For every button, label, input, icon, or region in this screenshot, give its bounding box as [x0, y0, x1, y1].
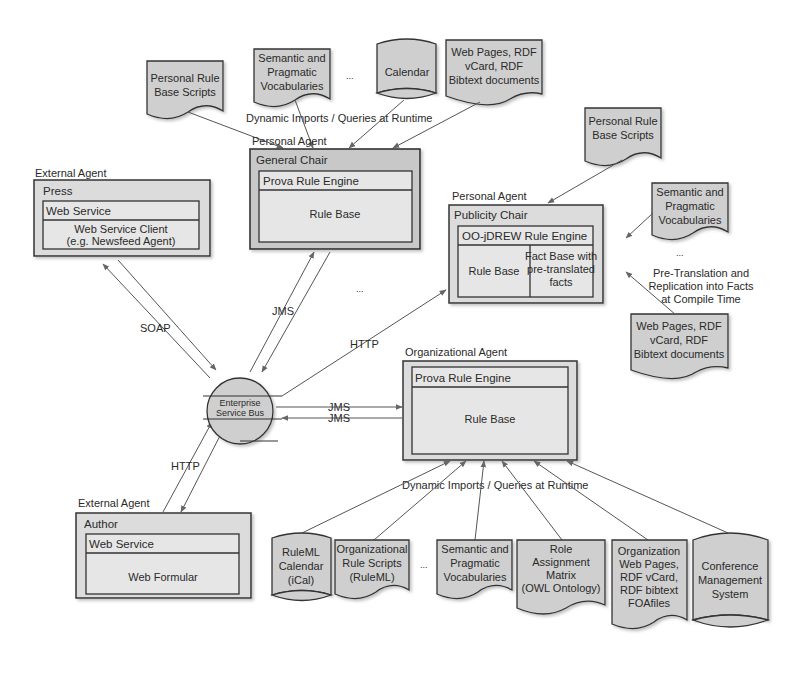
svg-text:vCard, RDF: vCard, RDF — [465, 60, 523, 72]
svg-text:Personal Agent: Personal Agent — [252, 135, 327, 147]
svg-text:External Agent: External Agent — [78, 497, 150, 509]
dynamic-imports-label-top: Dynamic Imports / Queries at Runtime — [246, 112, 432, 124]
jms-general-label: JMS — [272, 305, 294, 317]
svg-text:Personal Rule: Personal Rule — [150, 72, 219, 84]
dynamic-imports-label-bottom: Dynamic Imports / Queries at Runtime — [402, 479, 588, 491]
ellipsis-publicity: ... — [676, 248, 684, 258]
pre-translation-label: Pre-Translation and Replication into Fac… — [648, 267, 754, 305]
svg-text:Personal Rule: Personal Rule — [588, 115, 657, 127]
http-publicity-label: HTTP — [350, 338, 379, 350]
author-agent: External Agent Author Web Service Web Fo… — [76, 497, 251, 598]
svg-text:System: System — [712, 588, 749, 600]
svg-text:Base Scripts: Base Scripts — [592, 129, 654, 141]
bottom-source-org-web-pages: Organization Web Pages, RDF vCard, RDF b… — [612, 540, 687, 629]
svg-text:Vocabularies: Vocabularies — [444, 571, 507, 583]
svg-text:Prova Rule Engine: Prova Rule Engine — [263, 175, 359, 187]
svg-text:(iCal): (iCal) — [288, 574, 314, 586]
svg-text:pre-translated: pre-translated — [527, 263, 595, 275]
svg-text:Rule Base: Rule Base — [469, 265, 520, 277]
top-source-semantic-vocabularies: Semantic and Pragmatic Vocabularies — [254, 49, 330, 107]
svg-text:OO-jDREW Rule Engine: OO-jDREW Rule Engine — [462, 230, 587, 242]
top-source-web-pages: Web Pages, RDF vCard, RDF Bibtext docume… — [446, 40, 542, 105]
svg-text:RDF bibtext: RDF bibtext — [620, 584, 678, 596]
svg-text:Calendar: Calendar — [279, 560, 324, 572]
svg-text:Web Pages, RDF: Web Pages, RDF — [636, 320, 722, 332]
svg-text:Bibtext documents: Bibtext documents — [449, 74, 540, 86]
svg-text:Rule Base: Rule Base — [465, 413, 516, 425]
svg-text:General Chair: General Chair — [256, 154, 328, 166]
svg-text:Role: Role — [550, 543, 573, 555]
svg-text:at Compile Time: at Compile Time — [661, 293, 740, 305]
svg-text:Management: Management — [698, 574, 762, 586]
svg-text:Rule Scripts: Rule Scripts — [342, 557, 402, 569]
publicity-source-semantic-vocabularies: Semantic and Pragmatic Vocabularies — [652, 183, 728, 240]
svg-text:Pragmatic: Pragmatic — [450, 557, 500, 569]
svg-text:Press: Press — [43, 185, 73, 197]
bottom-source-ruleml-calendar: RuleML Calendar (iCal) — [272, 533, 331, 601]
svg-text:Web Service: Web Service — [89, 538, 154, 550]
press-agent: External Agent Press Web Service Web Ser… — [34, 167, 210, 256]
http-author-label: HTTP — [171, 460, 200, 472]
publicity-chair-agent: Personal Agent Publicity Chair OO-jDREW … — [449, 190, 603, 303]
general-chair-agent: Personal Agent General Chair Prova Rule … — [250, 135, 420, 249]
publicity-source-web-pages: Web Pages, RDF vCard, RDF Bibtext docume… — [631, 314, 728, 379]
svg-text:External Agent: External Agent — [35, 167, 107, 179]
svg-text:Author: Author — [84, 518, 118, 530]
top-source-personal-rule-base-scripts: Personal Rule Base Scripts — [147, 61, 223, 119]
bottom-source-semantic-vocabularies: Semantic and Pragmatic Vocabularies — [437, 540, 512, 599]
publicity-source-personal-rule-base-scripts: Personal Rule Base Scripts — [585, 108, 661, 166]
enterprise-service-bus: Enterprise Service Bus — [203, 378, 282, 444]
svg-text:RDF vCard,: RDF vCard, — [620, 571, 678, 583]
svg-text:Web Service: Web Service — [46, 205, 111, 217]
top-source-calendar: Calendar — [377, 39, 436, 99]
ellipsis-bottom: ... — [420, 560, 428, 570]
svg-text:Pragmatic: Pragmatic — [267, 66, 317, 78]
soap-label: SOAP — [140, 322, 171, 334]
svg-text:Pre-Translation and: Pre-Translation and — [653, 267, 749, 279]
svg-text:Web Pages,: Web Pages, — [619, 558, 679, 570]
svg-text:Fact Base with: Fact Base with — [525, 250, 597, 262]
bottom-source-org-rule-scripts: Organizational Rule Scripts (RuleML) — [335, 540, 409, 599]
svg-text:(OWL Ontology): (OWL Ontology) — [521, 582, 600, 594]
svg-text:vCard, RDF: vCard, RDF — [650, 334, 708, 346]
svg-text:Rule Base: Rule Base — [310, 208, 361, 220]
svg-text:Organizational Agent: Organizational Agent — [405, 346, 507, 358]
svg-text:Prova Rule Engine: Prova Rule Engine — [415, 372, 511, 384]
bottom-source-role-matrix: Role Assignment Matrix (OWL Ontology) — [517, 540, 605, 614]
svg-text:Web Formular: Web Formular — [128, 571, 198, 583]
svg-text:facts: facts — [549, 276, 573, 288]
organizational-agent: Organizational Agent Prova Rule Engine R… — [403, 346, 577, 460]
svg-text:Publicity Chair: Publicity Chair — [454, 209, 528, 221]
svg-text:Semantic and: Semantic and — [656, 186, 723, 198]
svg-text:(e.g. Newsfeed Agent): (e.g. Newsfeed Agent) — [67, 235, 176, 247]
svg-text:Organizational: Organizational — [337, 543, 408, 555]
svg-text:Service Bus: Service Bus — [216, 408, 265, 418]
svg-text:Organization: Organization — [618, 545, 680, 557]
svg-text:Base Scripts: Base Scripts — [154, 86, 216, 98]
svg-text:Web Pages, RDF: Web Pages, RDF — [451, 46, 537, 58]
ellipsis: ... — [346, 71, 354, 81]
svg-text:(RuleML): (RuleML) — [349, 571, 394, 583]
svg-text:Vocabularies: Vocabularies — [261, 80, 324, 92]
svg-text:Web Service Client: Web Service Client — [74, 223, 167, 235]
svg-text:Assignment: Assignment — [532, 556, 589, 568]
svg-text:Personal Agent: Personal Agent — [452, 190, 527, 202]
svg-text:Enterprise: Enterprise — [219, 398, 260, 408]
architecture-diagram: Personal Rule Base Scripts Semantic and … — [0, 0, 807, 678]
ellipsis-mid: ... — [356, 284, 364, 294]
svg-text:Calendar: Calendar — [385, 66, 430, 78]
svg-text:Replication into Facts: Replication into Facts — [648, 280, 754, 292]
svg-text:Semantic and: Semantic and — [258, 52, 325, 64]
svg-text:Bibtext documents: Bibtext documents — [634, 348, 725, 360]
svg-text:RuleML: RuleML — [282, 546, 320, 558]
jms-in-label: JMS — [328, 412, 350, 424]
svg-text:Conference: Conference — [702, 560, 759, 572]
bottom-source-conference-mgmt: Conference Management System — [693, 533, 768, 627]
svg-text:FOAfiles: FOAfiles — [628, 597, 671, 609]
svg-text:Vocabularies: Vocabularies — [659, 214, 722, 226]
svg-text:Matrix: Matrix — [546, 569, 576, 581]
svg-text:Pragmatic: Pragmatic — [665, 200, 715, 212]
svg-text:Semantic and: Semantic and — [441, 543, 508, 555]
